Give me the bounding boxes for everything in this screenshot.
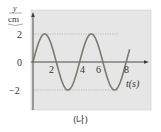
y-axis-label-numerator: y	[12, 4, 17, 13]
x-tick-4: 4	[80, 64, 85, 75]
plot-area	[31, 10, 151, 110]
x-axis-label: t(s)	[126, 78, 140, 90]
x-tick-2: 2	[49, 64, 54, 75]
y-axis-label-denominator: cm	[8, 14, 19, 24]
y-tick-neg2: −2	[9, 85, 20, 96]
figure-caption: (나)	[0, 113, 161, 126]
y-axis-label-brace	[8, 24, 23, 26]
x-tick-6: 6	[96, 64, 101, 75]
y-tick-2: 2	[17, 29, 22, 40]
x-tick-8: 8	[124, 64, 129, 75]
y-tick-0: 0	[17, 57, 22, 68]
